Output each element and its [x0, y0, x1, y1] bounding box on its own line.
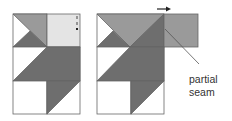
extended-piece — [164, 14, 198, 47]
right-arrow-icon — [157, 7, 171, 12]
light-square — [47, 14, 80, 47]
quilt-diagram — [0, 0, 232, 121]
annotation-line1: partial — [189, 73, 218, 85]
annotation-line2: seam — [189, 86, 215, 98]
right-block — [97, 14, 198, 114]
left-block — [13, 14, 80, 114]
